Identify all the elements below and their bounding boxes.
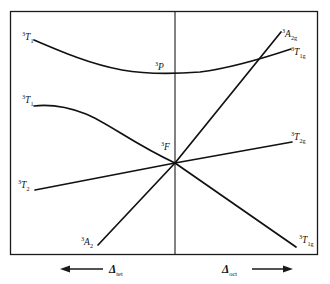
line-3T1g-descending (175, 163, 296, 247)
diagram-canvas: 3T1 3T1 3T2 3A2 3P 3F 3A2g 3T1g 3T2g 3T1… (0, 0, 330, 284)
correlation-diagram-figure: 3T1 3T1 3T2 3A2 3P 3F 3A2g 3T1g 3T2g 3T1… (0, 0, 330, 284)
tet-arrow-head-icon (60, 265, 70, 272)
label-3T1-upper: 3T1 (22, 30, 33, 44)
axis-label-delta-tet: Δtet (108, 263, 123, 277)
curve-3F-upper-branch (34, 105, 175, 163)
label-3P-center: 3P (155, 60, 164, 72)
label-3A2-left: 3A2 (81, 235, 93, 249)
label-3T2g-right: 3T2g (291, 130, 306, 144)
label-3A2g-right: 3A2g (282, 27, 297, 41)
plot-frame (11, 12, 318, 255)
label-3F-center: 3F (161, 140, 170, 152)
line-3A2g-right (175, 32, 281, 163)
label-3T1g-lower: 3T1g (299, 233, 314, 247)
axis-label-delta-oct: Δoct (221, 263, 237, 277)
label-3T1-middle: 3T1 (22, 93, 33, 107)
oct-arrow-head-icon (283, 265, 293, 272)
label-3T1g-upper: 3T1g (291, 45, 306, 59)
line-3T2g-right (175, 142, 292, 163)
label-3T2-left: 3T2 (18, 178, 29, 192)
